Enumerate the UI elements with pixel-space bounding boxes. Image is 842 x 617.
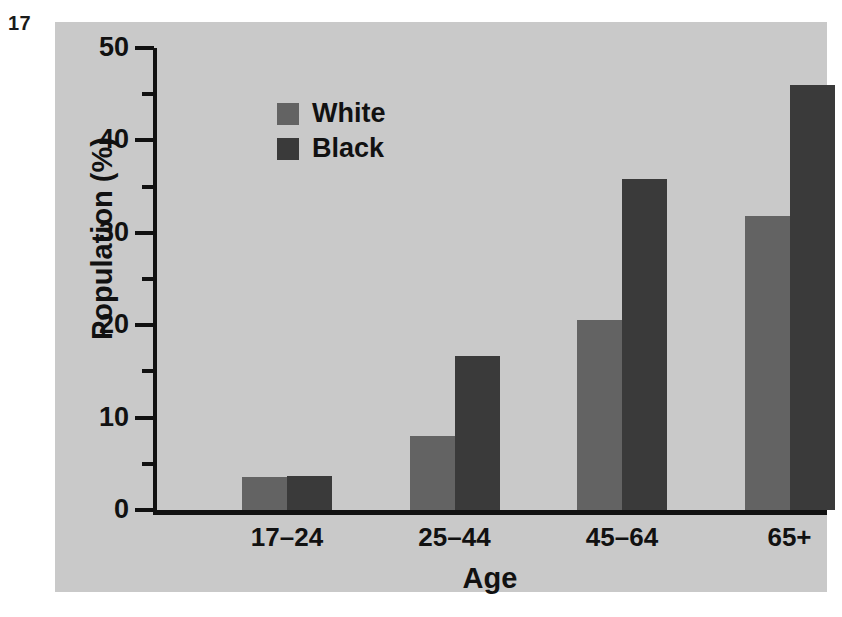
- bar-group: [410, 48, 500, 510]
- bar-black-65-: [790, 85, 835, 510]
- y-tick-major: [135, 416, 154, 420]
- y-tick-label: 50: [55, 34, 129, 61]
- y-tick-minor: [142, 277, 154, 281]
- figure-number: 17: [8, 12, 31, 35]
- legend-swatch-white: [277, 103, 299, 125]
- y-tick-minor: [142, 369, 154, 373]
- y-tick-minor: [142, 462, 154, 466]
- x-tick-label: 25–44: [375, 522, 535, 553]
- y-tick-label: 30: [55, 219, 129, 246]
- bar-white-25-44: [410, 436, 455, 510]
- legend-swatch-black: [277, 138, 299, 160]
- chart-legend: WhiteBlack: [277, 100, 386, 170]
- x-tick-label: 17–24: [207, 522, 367, 553]
- legend-label: Black: [312, 135, 384, 162]
- y-tick-major: [135, 508, 154, 512]
- y-tick-label: 10: [55, 404, 129, 431]
- bar-white-17-24: [242, 477, 287, 510]
- legend-item-white[interactable]: White: [277, 100, 386, 127]
- y-tick-minor: [142, 185, 154, 189]
- y-tick-minor: [142, 92, 154, 96]
- y-tick-label: 20: [55, 311, 129, 338]
- legend-item-black[interactable]: Black: [277, 135, 386, 162]
- bar-black-45-64: [622, 179, 667, 510]
- chart-panel: Population (%) 01020304050 17–2425–4445–…: [55, 22, 827, 592]
- x-tick-label: 45–64: [542, 522, 702, 553]
- y-tick-label: 0: [55, 496, 129, 523]
- y-tick-major: [135, 138, 154, 142]
- bar-black-25-44: [455, 356, 500, 510]
- legend-label: White: [312, 100, 386, 127]
- bar-group: [745, 48, 835, 510]
- bar-group: [577, 48, 667, 510]
- x-tick-label: 65+: [710, 522, 842, 553]
- x-axis-title: Age: [153, 562, 827, 595]
- x-axis-line: [153, 510, 827, 515]
- y-tick-major: [135, 46, 154, 50]
- bar-white-45-64: [577, 320, 622, 510]
- bar-black-17-24: [287, 476, 332, 510]
- plot-area: [157, 48, 827, 510]
- y-tick-major: [135, 323, 154, 327]
- bar-white-65-: [745, 216, 790, 510]
- y-tick-major: [135, 231, 154, 235]
- y-tick-label: 40: [55, 126, 129, 153]
